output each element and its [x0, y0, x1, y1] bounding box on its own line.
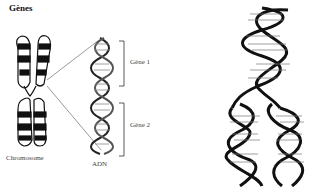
zoom-line-bottom	[47, 86, 101, 150]
gene1-bracket	[119, 41, 124, 86]
dna-strand-illustration	[91, 38, 113, 154]
gene2-label: Gène 2	[130, 121, 150, 129]
genes-diagram	[0, 0, 312, 187]
gene1-label: Gène 1	[130, 58, 150, 66]
zoom-line-top	[47, 40, 99, 80]
dna-label: ADN	[92, 160, 107, 168]
dna-replication-illustration	[226, 8, 303, 186]
gene2-bracket	[119, 103, 124, 156]
chromosome-label: Chromosome	[6, 154, 44, 162]
chromosome-illustration	[17, 36, 51, 146]
